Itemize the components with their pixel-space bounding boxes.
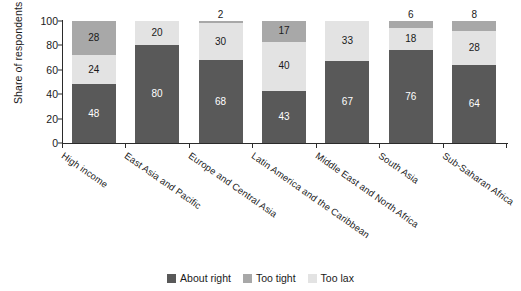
bar-group[interactable]: 482428 bbox=[62, 21, 125, 143]
bar-segment[interactable]: 40 bbox=[262, 42, 306, 91]
bar-segment[interactable]: 6 bbox=[389, 21, 433, 28]
bar-value-label: 20 bbox=[152, 28, 163, 38]
legend-label: About right bbox=[180, 272, 231, 284]
y-tick-label: 100 bbox=[40, 15, 58, 27]
bar-value-label: 2 bbox=[218, 10, 224, 20]
bar-group[interactable]: 76186 bbox=[379, 21, 442, 143]
x-tick-mark bbox=[125, 144, 126, 148]
bar-value-label: 33 bbox=[342, 36, 353, 46]
bar-value-label: 28 bbox=[469, 43, 480, 53]
y-tick-label: 40 bbox=[46, 88, 58, 100]
x-tick-mark bbox=[379, 144, 380, 148]
x-axis-label: South Asia bbox=[377, 150, 421, 186]
y-axis-title: Share of respondents (%) bbox=[12, 0, 24, 113]
bar-value-label: 68 bbox=[215, 97, 226, 107]
bar-segment[interactable]: 18 bbox=[389, 28, 433, 50]
bar-value-label: 24 bbox=[88, 65, 99, 75]
bar-group[interactable]: 6733 bbox=[316, 21, 379, 143]
legend-swatch-icon bbox=[243, 274, 252, 283]
bar-segment[interactable]: 48 bbox=[72, 84, 116, 143]
bar-segment[interactable]: 24 bbox=[72, 55, 116, 84]
bar-stack: 68302 bbox=[199, 21, 243, 143]
plot-area: 020406080100 482428802068302434017673376… bbox=[62, 21, 506, 143]
bar-stack: 434017 bbox=[262, 21, 306, 143]
bar-segment[interactable]: 17 bbox=[262, 21, 306, 42]
x-tick-mark bbox=[252, 144, 253, 148]
legend-item[interactable]: Too lax bbox=[308, 272, 354, 284]
legend-item[interactable]: Too tight bbox=[243, 272, 296, 284]
x-axis-label: Sub-Saharan Africa bbox=[440, 150, 515, 207]
bar-segment[interactable]: 64 bbox=[452, 65, 496, 143]
bar-value-label: 6 bbox=[408, 10, 414, 20]
x-axis-label: High income bbox=[60, 150, 110, 190]
y-tick-label: 80 bbox=[46, 39, 58, 51]
legend-swatch-icon bbox=[308, 274, 317, 283]
bar-segment[interactable]: 67 bbox=[325, 61, 369, 143]
bar-stack: 64288 bbox=[452, 21, 496, 143]
chart-legend: About rightToo tightToo lax bbox=[0, 272, 521, 284]
bar-segment[interactable]: 30 bbox=[199, 23, 243, 60]
y-tick-label: 0 bbox=[52, 137, 58, 149]
bar-value-label: 43 bbox=[278, 112, 289, 122]
bar-stack: 6733 bbox=[325, 21, 369, 143]
bar-segment[interactable]: 8 bbox=[452, 21, 496, 31]
x-tick-mark bbox=[443, 144, 444, 148]
bar-value-label: 28 bbox=[88, 33, 99, 43]
bar-value-label: 8 bbox=[471, 10, 477, 20]
legend-label: Too tight bbox=[256, 272, 296, 284]
bar-stack: 482428 bbox=[72, 21, 116, 143]
bar-segment[interactable]: 28 bbox=[452, 31, 496, 65]
bar-value-label: 64 bbox=[469, 99, 480, 109]
bar-segment[interactable]: 43 bbox=[262, 91, 306, 143]
legend-label: Too lax bbox=[321, 272, 354, 284]
y-tick-label: 60 bbox=[46, 64, 58, 76]
bar-segment[interactable]: 80 bbox=[135, 45, 179, 143]
legend-swatch-icon bbox=[167, 274, 176, 283]
bar-value-label: 18 bbox=[405, 34, 416, 44]
legend-item[interactable]: About right bbox=[167, 272, 231, 284]
bar-value-label: 76 bbox=[405, 92, 416, 102]
bar-segment[interactable]: 2 bbox=[199, 21, 243, 23]
x-tick-mark bbox=[189, 144, 190, 148]
x-tick-mark bbox=[62, 144, 63, 148]
bar-value-label: 17 bbox=[278, 26, 289, 36]
bar-group[interactable]: 434017 bbox=[252, 21, 315, 143]
x-axis-label: Middle East and North Africa bbox=[313, 150, 420, 230]
bar-stack: 8020 bbox=[135, 21, 179, 143]
bar-stack: 76186 bbox=[389, 21, 433, 143]
bar-segment[interactable]: 28 bbox=[72, 21, 116, 55]
y-tick-label: 20 bbox=[46, 113, 58, 125]
bar-value-label: 30 bbox=[215, 37, 226, 47]
bar-value-label: 67 bbox=[342, 97, 353, 107]
stacked-bar-chart: Share of respondents (%) 020406080100 48… bbox=[0, 0, 521, 291]
bar-segment[interactable]: 68 bbox=[199, 60, 243, 143]
bar-value-label: 40 bbox=[278, 61, 289, 71]
bar-segment[interactable]: 33 bbox=[325, 21, 369, 61]
x-tick-mark bbox=[506, 144, 507, 148]
x-axis-line bbox=[62, 143, 508, 144]
x-tick-mark bbox=[316, 144, 317, 148]
x-axis-label: Latin America and the Caribbean bbox=[250, 150, 372, 240]
bar-value-label: 48 bbox=[88, 109, 99, 119]
bar-group[interactable]: 68302 bbox=[189, 21, 252, 143]
bar-value-label: 80 bbox=[152, 89, 163, 99]
bar-segment[interactable]: 20 bbox=[135, 21, 179, 45]
bar-group[interactable]: 64288 bbox=[443, 21, 506, 143]
bar-segment[interactable]: 76 bbox=[389, 50, 433, 143]
bar-group[interactable]: 8020 bbox=[125, 21, 188, 143]
